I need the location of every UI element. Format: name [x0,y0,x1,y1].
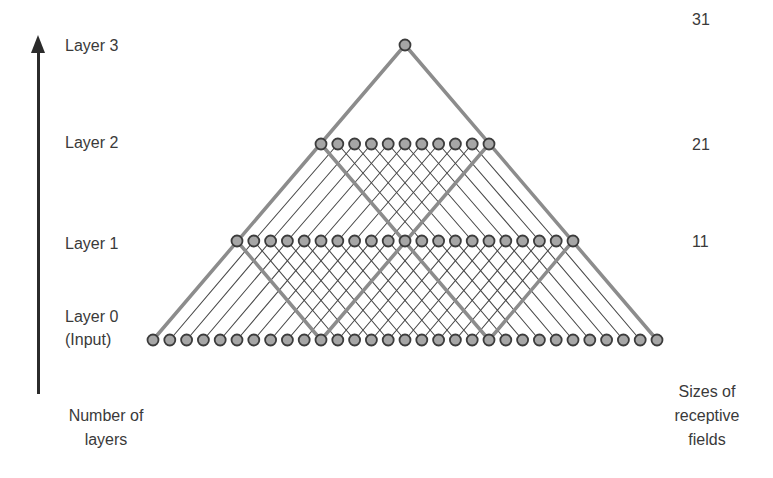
layer-3-label: Layer 3 [65,36,118,56]
neuron-node [181,335,192,346]
neuron-node [568,236,579,247]
receptive-field-layer-1: 11 [692,232,709,252]
layer-axis-line [37,50,40,394]
neuron-node [517,335,528,346]
neuron-node [383,335,394,346]
connection-edge [439,144,523,241]
neuron-node [484,335,495,346]
connection-edge [271,144,355,241]
neuron-node [299,236,310,247]
receptive-field-boundary-edges [153,45,657,340]
connection-edge [304,144,388,241]
neuron-node [248,335,259,346]
neuron-node [416,236,427,247]
connection-edge [556,241,640,340]
neuron-node [265,236,276,247]
neuron-node [652,335,663,346]
neuron-node [467,139,478,150]
neuron-node [433,335,444,346]
connection-edge [220,241,304,340]
connection-edge [287,144,371,241]
neuron-node [316,335,327,346]
neuron-node [534,335,545,346]
neuron-node [601,335,612,346]
neuron-node [416,139,427,150]
connection-edge [455,144,539,241]
neuron-node [366,335,377,346]
connection-edge [170,241,254,340]
neuron-node [332,139,343,150]
neuron-node [500,335,511,346]
neuron-node [349,335,360,346]
neuron-node [467,335,478,346]
connection-edge [187,241,271,340]
neuron-node [366,139,377,150]
receptive-field-layer-3: 31 [692,10,710,30]
neuron-node [450,335,461,346]
neuron-node [618,335,629,346]
neuron-node [232,236,243,247]
left-axis-caption-line2: layers [46,430,166,450]
neuron-node [467,236,478,247]
layer-0-sublabel: (Input) [65,330,111,350]
right-axis-caption-line2: receptive [652,406,762,426]
right-axis-caption-line1: Sizes of [652,382,762,402]
connection-edge [472,144,556,241]
connection-edge [422,144,506,241]
neuron-node [164,335,175,346]
layer-1-label: Layer 1 [65,234,118,254]
neuron-node [534,236,545,247]
neuron-node [400,335,411,346]
neuron-node [282,236,293,247]
neuron-node [450,139,461,150]
neuron-node [349,236,360,247]
neuron-node [148,335,159,346]
neuron-node [450,236,461,247]
neuron-node [484,236,495,247]
neuron-node [416,335,427,346]
neuron-node [433,236,444,247]
right-axis-caption-line3: fields [652,430,762,450]
connection-edge [539,241,623,340]
neuron-node [265,335,276,346]
connection-edge [523,241,607,340]
neuron-node [299,335,310,346]
neuron-node [517,236,528,247]
neuron-node [198,335,209,346]
arrow-up-icon [31,35,45,53]
neuron-node [316,236,327,247]
neuron-node [282,335,293,346]
neuron-node [332,335,343,346]
neuron-node [316,139,327,150]
neuron-node [332,236,343,247]
neuron-node [484,139,495,150]
neuron-node [433,139,444,150]
neuron-node [248,236,259,247]
receptive-field-layer-2: 21 [692,135,710,155]
connection-edge [254,144,338,241]
neuron-node [551,236,562,247]
connection-edge [506,241,590,340]
neuron-node [232,335,243,346]
neuron-node [500,236,511,247]
neuron-node [366,236,377,247]
neuron-node [584,335,595,346]
neuron-node [551,335,562,346]
neuron-node [400,40,411,51]
layer-2-label: Layer 2 [65,133,118,153]
neuron-node [215,335,226,346]
neuron-node [349,139,360,150]
neuron-node [400,236,411,247]
neuron-node [400,139,411,150]
left-axis-caption-line1: Number of [46,406,166,426]
neuron-node [568,335,579,346]
layer-0-label: Layer 0 [65,307,118,327]
neuron-node [383,236,394,247]
neuron-node [383,139,394,150]
neuron-node [635,335,646,346]
connection-edge [203,241,287,340]
